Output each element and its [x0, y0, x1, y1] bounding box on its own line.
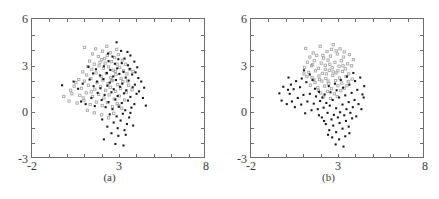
- scatter-point: [335, 143, 337, 145]
- scatter-point: [346, 75, 348, 77]
- scatter-point: [85, 103, 87, 105]
- scatter-point: [87, 84, 89, 86]
- x-minor-tick: [67, 154, 68, 157]
- scatter-point: [318, 78, 320, 80]
- scatter-point: [90, 91, 92, 93]
- scatter-point: [116, 41, 118, 43]
- scatter-point: [313, 60, 315, 62]
- x-minor-tick: [355, 154, 356, 157]
- scatter-point: [96, 81, 98, 83]
- scatter-point: [122, 71, 124, 73]
- scatter-point: [82, 97, 84, 99]
- scatter-point: [98, 65, 100, 67]
- scatter-point: [317, 108, 319, 110]
- scatter-point: [118, 73, 120, 75]
- scatter-point: [325, 123, 327, 125]
- scatter-point: [129, 112, 131, 114]
- y-minor-tick: [201, 128, 204, 129]
- x-minor-tick: [338, 154, 339, 157]
- x-minor-tick: [286, 154, 287, 157]
- scatter-point: [327, 80, 329, 82]
- scatter-point: [116, 67, 118, 69]
- scatter-point: [103, 138, 105, 140]
- y-minor-tick: [201, 81, 204, 82]
- scatter-point: [348, 84, 350, 86]
- scatter-point: [119, 66, 121, 68]
- scatter-point: [142, 97, 144, 99]
- scatter-point: [309, 73, 311, 75]
- scatter-point: [122, 80, 124, 82]
- scatter-point: [106, 85, 108, 87]
- scatter-point: [121, 102, 123, 104]
- scatter-point: [321, 72, 323, 74]
- scatter-point: [102, 78, 104, 80]
- scatter-point: [342, 146, 344, 148]
- scatter-point: [356, 89, 358, 91]
- scatter-point: [109, 69, 111, 71]
- scatter-point: [321, 96, 323, 98]
- scatter-point: [106, 72, 108, 74]
- scatter-point: [306, 100, 308, 102]
- scatter-point: [309, 56, 311, 58]
- x-minor-tick: [373, 19, 374, 22]
- x-minor-tick: [355, 19, 356, 22]
- scatter-point: [122, 144, 124, 146]
- scatter-point: [106, 126, 108, 128]
- y-minor-tick: [32, 97, 35, 98]
- scatter-point: [352, 106, 354, 108]
- scatter-point: [88, 60, 90, 62]
- scatter-point: [103, 97, 105, 99]
- x-minor-tick: [67, 19, 68, 22]
- scatter-point: [138, 90, 140, 92]
- scatter-point: [126, 123, 128, 125]
- scatter-point: [312, 52, 314, 54]
- scatter-point: [339, 122, 341, 124]
- y-minor-tick: [32, 143, 35, 144]
- scatter-point: [109, 86, 111, 88]
- scatter-point: [360, 108, 362, 110]
- scatter-point: [345, 108, 347, 110]
- y-minor-tick: [201, 35, 204, 36]
- scatter-point: [333, 93, 335, 95]
- x-minor-tick: [189, 19, 190, 22]
- scatter-point: [105, 106, 107, 108]
- scatter-point: [137, 77, 139, 79]
- scatter-point: [330, 88, 332, 90]
- scatter-point: [334, 80, 336, 82]
- scatter-point: [290, 84, 292, 86]
- x-minor-tick: [338, 19, 339, 22]
- scatter-point: [324, 93, 326, 95]
- scatter-point: [351, 117, 353, 119]
- scatter-point: [348, 101, 350, 103]
- scatter-point: [115, 79, 117, 81]
- scatter-point: [133, 61, 135, 63]
- scatter-point: [293, 88, 295, 90]
- x-minor-tick: [119, 154, 120, 157]
- scatter-point: [363, 96, 365, 98]
- scatter-point: [113, 112, 115, 114]
- scatter-point: [326, 90, 328, 92]
- scatter-point: [125, 77, 127, 79]
- scatter-point: [313, 103, 315, 105]
- x-minor-tick: [154, 19, 155, 22]
- scatter-point: [128, 80, 130, 82]
- scatter-point: [117, 58, 119, 60]
- scatter-point: [335, 131, 337, 133]
- scatter-point: [309, 93, 311, 95]
- scatter-point: [111, 56, 113, 58]
- scatter-point: [125, 89, 127, 91]
- scatter-point: [114, 63, 116, 65]
- scatter-point: [113, 88, 115, 90]
- y-minor-tick: [32, 112, 35, 113]
- scatter-point: [123, 58, 125, 60]
- scatter-point: [336, 89, 338, 91]
- scatter-point: [83, 46, 85, 48]
- x-tick-label: -2: [246, 160, 256, 172]
- scatter-point: [334, 61, 336, 63]
- scatter-point: [129, 96, 131, 98]
- scatter-point: [99, 87, 101, 89]
- x-minor-tick: [268, 154, 269, 157]
- scatter-point: [110, 76, 112, 78]
- scatter-point: [107, 52, 109, 54]
- panel-caption-b: (b): [219, 172, 438, 183]
